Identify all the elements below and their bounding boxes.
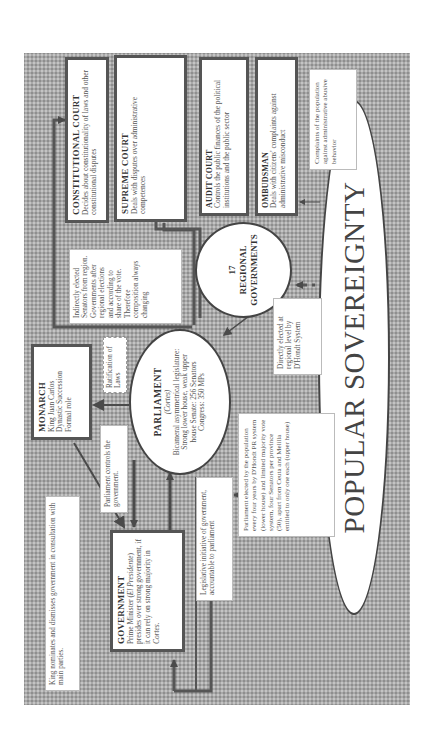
legislative-initiative-text: Legislative initiative of government, ac… [200,490,216,595]
ratification-text: Ratification of Laws [106,346,122,388]
complaints-note: Complaints of the population against adm… [309,69,357,170]
audit-court-text: Controls the public finances of the poli… [213,80,231,208]
parliament-elected-text: Parliament elected by the population eve… [242,420,291,531]
parliament-elected-note: Parliament elected by the population eve… [238,413,335,537]
constitutional-court-box: CONSTITUTIONAL COURT Decides about const… [65,57,109,223]
directly-elected-note: Directly elected at regional level by D'… [273,298,322,375]
regional-governments-title: REGIONAL GOVERNMENTS [238,230,260,310]
monarch-line-3: Formal role [65,352,74,432]
parliament-controls-note: Parliament controls the government. [100,425,128,513]
king-nominates-text: King nominates and dismisses government … [49,503,65,685]
directly-elected-text: Directly elected at regional level by D'… [277,316,302,369]
popular-sovereignty-title: POPULAR SOVEREIGNTY [338,182,371,534]
government-box: GOVERNMENT Prime Minister (El Presidente… [110,530,185,652]
monarch-box: MONARCH King Juan Carlos Dynastic Succes… [31,344,92,440]
government-text-1: Prime Minister ( [126,595,135,644]
indirectly-elected-note: Indirectly elected Senators from region.… [69,249,182,324]
indirectly-elected-text: Indirectly elected Senators from region.… [73,256,149,318]
government-text-italic-2: Cortes. [152,622,161,644]
parliament-ellipse: PARLIAMENT (Cortes) Bicameral asymmetric… [129,329,231,475]
ombudsman-text: Deals with citizens' complaints against … [269,93,287,208]
popular-sovereignty-ellipse: POPULAR SOVEREIGNTY [318,100,390,615]
regional-count: 17 [227,266,238,275]
political-system-diagram: CONSTITUTIONAL COURT Decides about const… [24,53,410,705]
supreme-court-text: Deals with disputes over administrative … [130,97,148,214]
government-text-italic: El Presidente [126,555,135,595]
complaints-text: Complaints of the population against adm… [313,79,338,164]
constitutional-court-text: Decides about constitutionality of laws … [81,70,99,215]
parliament-controls-text: Parliament controls the government. [104,440,120,507]
king-nominates-note: King nominates and dismisses government … [45,496,80,691]
parliament-text: Bicameral asymmetrical legislature: Stro… [173,347,207,457]
ratification-note: Ratification of Laws [103,337,127,393]
ombudsman-box: OMBUDSMAN Deals with citizens' complaint… [255,57,298,216]
supreme-court-box: SUPREME COURT Deals with disputes over a… [114,55,187,222]
legislative-initiative-note: Legislative initiative of government, ac… [196,477,233,601]
audit-court-box: AUDIT COURT Controls the public finances… [199,57,249,216]
